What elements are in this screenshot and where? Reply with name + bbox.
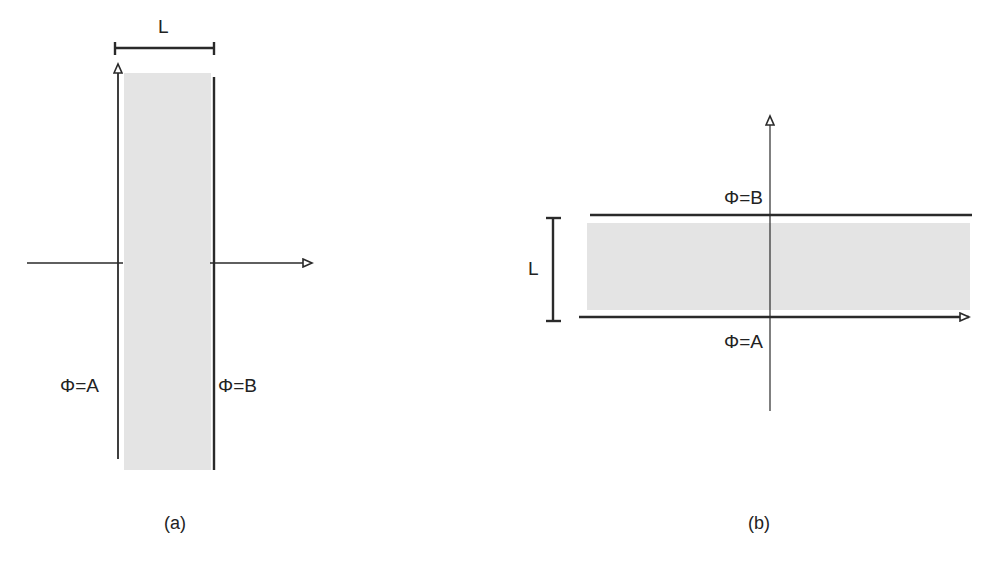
slab-a	[124, 73, 211, 470]
right-boundary-label-a: Φ=B	[218, 376, 257, 395]
slab-b	[587, 223, 970, 310]
left-boundary-label-a: Φ=A	[60, 376, 99, 395]
thickness-label-a: L	[158, 17, 169, 36]
top-boundary-label-b: Φ=B	[724, 188, 763, 207]
panel-a	[27, 42, 312, 470]
thickness-bracket-a	[115, 42, 214, 55]
caption-b: (b)	[748, 514, 770, 532]
panel-b	[546, 116, 972, 411]
diagram-canvas	[0, 0, 981, 571]
bottom-boundary-label-b: Φ=A	[724, 332, 763, 351]
caption-a: (a)	[164, 514, 186, 532]
thickness-label-b: L	[528, 259, 539, 278]
thickness-bracket-b	[546, 218, 561, 321]
